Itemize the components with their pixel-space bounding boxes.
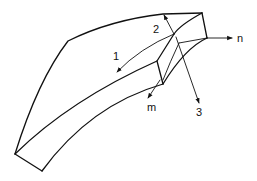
label-axis-2: 2 <box>153 23 159 35</box>
axis-3-arrow <box>176 37 199 103</box>
beam-left-end-edge <box>15 154 42 171</box>
beam-back-lower-edge <box>163 38 207 84</box>
label-axis-3: 3 <box>196 106 202 118</box>
axis-m-arrow <box>148 80 160 98</box>
label-normal-n: n <box>237 32 243 44</box>
curved-beam-diagram: 2 1 3 n m <box>0 0 257 181</box>
beam-outline <box>15 13 207 171</box>
beam-front-lower-edge <box>42 84 163 171</box>
axis-labels: 2 1 3 n m <box>113 23 243 118</box>
end-top-face-right-edge <box>202 13 207 38</box>
label-normal-m: m <box>147 101 156 113</box>
beam-top-inner-edge <box>174 13 202 34</box>
beam-front-upper-edge <box>15 61 157 154</box>
axis-2-arrow <box>164 15 174 34</box>
label-axis-1: 1 <box>113 50 119 62</box>
axes <box>117 15 232 103</box>
